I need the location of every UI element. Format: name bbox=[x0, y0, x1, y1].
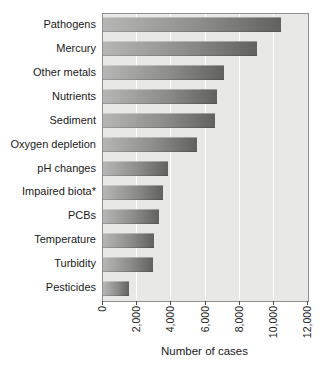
tick-mark bbox=[205, 301, 206, 305]
x-tick-label: 12,000 bbox=[301, 306, 313, 342]
category-label: Mercury bbox=[0, 37, 96, 61]
category-label: pH changes bbox=[0, 157, 96, 181]
tick-mark bbox=[136, 301, 137, 305]
category-label: Other metals bbox=[0, 61, 96, 85]
category-label: Temperature bbox=[0, 228, 96, 252]
category-label: Pesticides bbox=[0, 276, 96, 300]
category-label: Oxygen depletion bbox=[0, 133, 96, 157]
tick-mark bbox=[102, 301, 103, 305]
gridline bbox=[273, 14, 274, 300]
category-label: PCBs bbox=[0, 204, 96, 228]
bar bbox=[103, 137, 197, 152]
bar bbox=[103, 113, 215, 128]
impairment-causes-bar-chart: PathogensMercuryOther metalsNutrientsSed… bbox=[0, 0, 323, 366]
bar bbox=[103, 209, 159, 224]
category-label: Nutrients bbox=[0, 85, 96, 109]
x-tick-label: 2,000 bbox=[130, 306, 142, 342]
category-label: Turbidity bbox=[0, 252, 96, 276]
bar bbox=[103, 17, 281, 32]
tick-mark bbox=[170, 301, 171, 305]
category-label: Pathogens bbox=[0, 13, 96, 37]
x-tick-label: 10,000 bbox=[267, 306, 279, 342]
bar bbox=[103, 257, 153, 272]
bar bbox=[103, 89, 217, 104]
tick-mark bbox=[273, 301, 274, 305]
gridline bbox=[205, 14, 206, 300]
gridline bbox=[170, 14, 171, 300]
bar bbox=[103, 185, 163, 200]
tick-mark bbox=[239, 301, 240, 305]
bar bbox=[103, 233, 154, 248]
bar bbox=[103, 65, 224, 80]
x-axis-title: Number of cases bbox=[102, 345, 307, 357]
category-label: Sediment bbox=[0, 109, 96, 133]
bar bbox=[103, 41, 257, 56]
x-tick-label: 8,000 bbox=[233, 306, 245, 342]
x-tick-label: 0 bbox=[96, 306, 108, 342]
bar bbox=[103, 161, 168, 176]
x-tick-label: 6,000 bbox=[199, 306, 211, 342]
gridline bbox=[239, 14, 240, 300]
x-tick-label: 4,000 bbox=[164, 306, 176, 342]
tick-mark bbox=[307, 301, 308, 305]
category-label: Impaired biota* bbox=[0, 180, 96, 204]
bar bbox=[103, 281, 129, 296]
